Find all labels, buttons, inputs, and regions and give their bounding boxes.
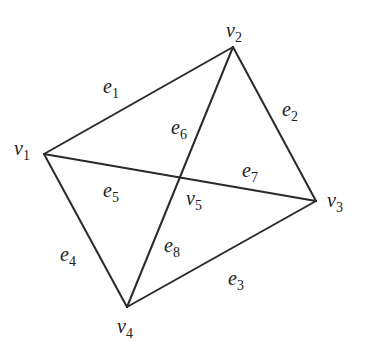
vertex-label-v4: v4 xyxy=(117,316,133,341)
edge-label-subscript: 2 xyxy=(291,109,298,124)
vertex-label-v1: v1 xyxy=(14,138,30,163)
edge-label-e6: e6 xyxy=(171,117,187,142)
edge-label-base: e xyxy=(103,179,112,201)
edge-label-subscript: 4 xyxy=(69,254,76,269)
edge-label-base: e xyxy=(60,243,69,265)
graph-edges xyxy=(0,0,369,353)
edge-label-e5: e5 xyxy=(103,180,119,205)
line-v2-v4 xyxy=(127,47,233,307)
edge-label-subscript: 8 xyxy=(173,245,180,260)
vertex-label-subscript: 4 xyxy=(126,326,133,341)
edge-label-subscript: 3 xyxy=(237,278,244,293)
edge-label-base: e xyxy=(228,267,237,289)
vertex-label-base: v xyxy=(226,19,235,41)
edge-label-e7: e7 xyxy=(242,160,258,185)
vertex-label-v5: v5 xyxy=(186,188,202,213)
edge-label-e2: e2 xyxy=(282,99,298,124)
vertex-label-base: v xyxy=(327,189,336,211)
line-v3-v4 xyxy=(127,201,316,307)
edge-label-e8: e8 xyxy=(164,235,180,260)
edge-label-e4: e4 xyxy=(60,244,76,269)
edge-label-base: e xyxy=(242,159,251,181)
graph-diagram: v1v2v3v4v5e1e2e3e4e5e6e7e8 xyxy=(0,0,369,353)
edge-label-base: e xyxy=(282,98,291,120)
edge-label-base: e xyxy=(103,75,112,97)
vertex-label-subscript: 5 xyxy=(195,198,202,213)
vertex-label-v2: v2 xyxy=(226,20,242,45)
vertex-label-subscript: 2 xyxy=(235,30,242,45)
edge-label-subscript: 6 xyxy=(180,127,187,142)
line-v1-v2 xyxy=(44,47,233,154)
vertex-label-base: v xyxy=(186,187,195,209)
line-v4-v1 xyxy=(44,154,127,307)
edge-label-e1: e1 xyxy=(103,76,119,101)
edge-label-base: e xyxy=(164,234,173,256)
vertex-label-subscript: 3 xyxy=(336,200,343,215)
vertex-label-subscript: 1 xyxy=(23,148,30,163)
edge-label-base: e xyxy=(171,116,180,138)
vertex-label-base: v xyxy=(117,315,126,337)
edge-label-e3: e3 xyxy=(228,268,244,293)
edge-label-subscript: 5 xyxy=(112,190,119,205)
vertex-label-v3: v3 xyxy=(327,190,343,215)
vertex-label-base: v xyxy=(14,137,23,159)
edge-label-subscript: 7 xyxy=(251,170,258,185)
edge-label-subscript: 1 xyxy=(112,86,119,101)
